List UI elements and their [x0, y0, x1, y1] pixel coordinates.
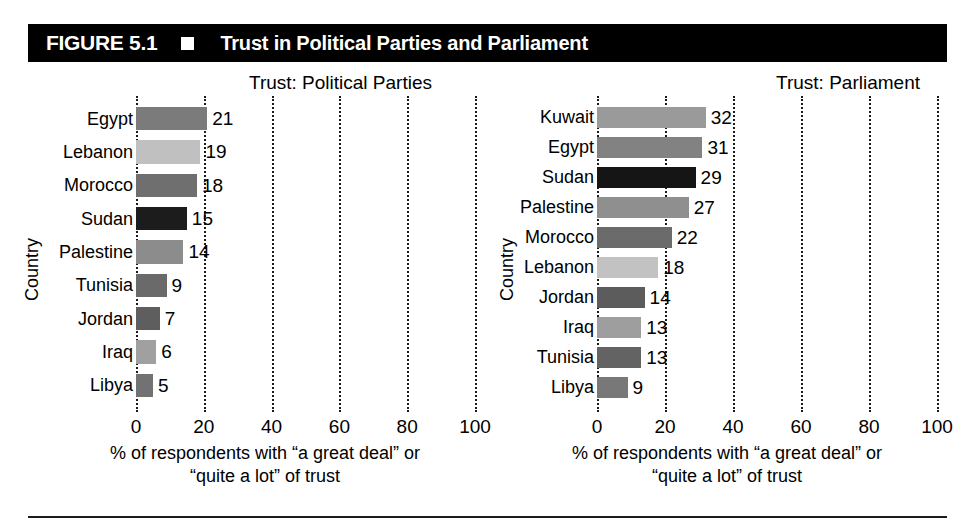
x-axis-tick-label: 100 — [921, 416, 953, 438]
bar-row: Iraq6 — [136, 340, 475, 363]
bar-row: Morocco22 — [597, 227, 937, 248]
bar-value-label: 14 — [650, 288, 671, 307]
bar-value-label: 22 — [677, 228, 698, 247]
bar-row: Palestine14 — [136, 240, 475, 263]
bar — [136, 140, 200, 163]
bar-value-label: 13 — [646, 348, 667, 367]
bar — [597, 317, 641, 338]
bar — [597, 287, 645, 308]
x-axis-label-right-line1: % of respondents with “a great deal” or — [512, 442, 942, 465]
bar-row: Jordan14 — [597, 287, 937, 308]
x-axis-tick-label: 40 — [722, 416, 743, 438]
category-label: Sudan — [81, 210, 136, 228]
x-axis-label-left-line2: “quite a lot” of trust — [50, 465, 480, 488]
bar — [136, 340, 156, 363]
x-axis-right: 020406080100 — [597, 408, 937, 434]
category-label: Jordan — [539, 288, 597, 306]
bar-value-label: 14 — [188, 242, 209, 261]
chart-subtitle-left: Trust: Political Parties — [249, 72, 432, 94]
bar — [597, 107, 706, 128]
x-axis-label-left: % of respondents with “a great deal” or … — [50, 442, 480, 487]
figure-bottom-rule — [28, 516, 947, 518]
bar — [136, 274, 167, 297]
bar-value-label: 9 — [172, 276, 183, 295]
x-axis-tick-label: 40 — [261, 416, 282, 438]
category-label: Iraq — [102, 343, 136, 361]
bar-value-label: 7 — [165, 309, 176, 328]
plot-area-right: Kuwait32Egypt31Sudan29Palestine27Morocco… — [597, 102, 937, 402]
x-axis-label-right: % of respondents with “a great deal” or … — [512, 442, 942, 487]
bar-row: Morocco18 — [136, 174, 475, 197]
bar-row: Libya9 — [597, 377, 937, 398]
bar-value-label: 32 — [711, 108, 732, 127]
bar — [597, 257, 658, 278]
bar-value-label: 13 — [646, 318, 667, 337]
bar-value-label: 15 — [192, 209, 213, 228]
category-label: Palestine — [520, 198, 597, 216]
bar-row: Kuwait32 — [597, 107, 937, 128]
x-axis-label-right-line2: “quite a lot” of trust — [512, 465, 942, 488]
category-label: Tunisia — [537, 348, 597, 366]
bar — [136, 174, 197, 197]
category-label: Palestine — [59, 243, 136, 261]
bar — [597, 137, 702, 158]
bar-value-label: 18 — [663, 258, 684, 277]
category-label: Lebanon — [63, 143, 136, 161]
bar-rows-left: Egypt21Lebanon19Morocco18Sudan15Palestin… — [136, 102, 475, 402]
bar-row: Jordan7 — [136, 307, 475, 330]
category-label: Egypt — [548, 138, 597, 156]
category-label: Iraq — [563, 318, 597, 336]
figure-number: FIGURE 5.1 — [46, 31, 157, 55]
bar-row: Egypt21 — [136, 107, 475, 130]
bar-row: Palestine27 — [597, 197, 937, 218]
x-axis-tick-label: 80 — [397, 416, 418, 438]
bar — [597, 377, 628, 398]
bar-row: Libya5 — [136, 374, 475, 397]
bar — [136, 307, 160, 330]
category-label: Tunisia — [76, 276, 136, 294]
plot-area-left: Egypt21Lebanon19Morocco18Sudan15Palestin… — [136, 102, 475, 402]
bar — [136, 207, 187, 230]
y-axis-title-left: Country — [22, 238, 43, 301]
bar-value-label: 21 — [212, 109, 233, 128]
bar — [597, 347, 641, 368]
x-axis-tick-label: 0 — [131, 416, 142, 438]
gridline — [475, 96, 477, 412]
bar-rows-right: Kuwait32Egypt31Sudan29Palestine27Morocco… — [597, 102, 937, 402]
bar-row: Lebanon18 — [597, 257, 937, 278]
bar-value-label: 18 — [202, 176, 223, 195]
bar — [136, 240, 183, 263]
bar — [597, 197, 689, 218]
bar-value-label: 29 — [701, 168, 722, 187]
bar-value-label: 5 — [158, 376, 169, 395]
x-axis-tick-label: 20 — [193, 416, 214, 438]
bar-value-label: 6 — [161, 342, 172, 361]
chart-panel-political-parties: Trust: Political Parties Country Egypt21… — [10, 64, 490, 504]
bar-row: Sudan15 — [136, 207, 475, 230]
figure-header-bar: FIGURE 5.1 Trust in Political Parties an… — [28, 24, 947, 62]
chart-panel-parliament: Trust: Parliament Country Kuwait32Egypt3… — [478, 64, 968, 504]
y-axis-title-right: Country — [497, 238, 518, 301]
category-label: Lebanon — [524, 258, 597, 276]
x-axis-tick-label: 80 — [858, 416, 879, 438]
category-label: Libya — [551, 378, 597, 396]
bar — [597, 227, 672, 248]
bar — [136, 107, 207, 130]
bar — [136, 374, 153, 397]
category-label: Sudan — [542, 168, 597, 186]
square-bullet-icon — [181, 37, 194, 50]
bar-row: Iraq13 — [597, 317, 937, 338]
x-axis-tick-label: 20 — [654, 416, 675, 438]
chart-subtitle-right: Trust: Parliament — [776, 72, 920, 94]
category-label: Morocco — [64, 176, 136, 194]
bar-row: Lebanon19 — [136, 140, 475, 163]
figure-title: Trust in Political Parties and Parliamen… — [220, 32, 587, 55]
category-label: Libya — [90, 376, 136, 394]
x-axis-tick-label: 60 — [329, 416, 350, 438]
bar — [597, 167, 696, 188]
x-axis-tick-label: 60 — [790, 416, 811, 438]
bar-row: Tunisia9 — [136, 274, 475, 297]
bar-row: Tunisia13 — [597, 347, 937, 368]
category-label: Kuwait — [540, 108, 597, 126]
category-label: Egypt — [87, 110, 136, 128]
